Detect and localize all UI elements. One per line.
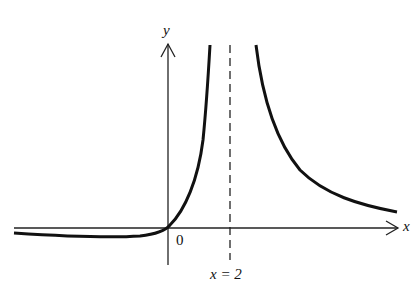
graph-figure: y x 0 x = 2	[0, 0, 411, 288]
curve-right-branch	[256, 45, 397, 212]
asymptote-label: x = 2	[210, 266, 242, 283]
origin-label: 0	[176, 232, 184, 249]
graph-canvas	[0, 0, 411, 288]
x-axis-label: x	[403, 218, 410, 235]
curve-left-branch	[14, 45, 210, 237]
y-axis-label: y	[163, 22, 170, 39]
